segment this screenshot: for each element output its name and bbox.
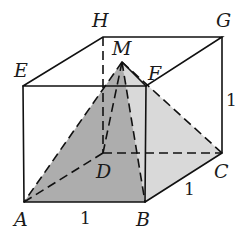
label-m: M [111,37,132,59]
label-g: G [216,9,231,31]
label-h: H [91,9,109,31]
label-b: B [135,208,150,230]
cube-pyramid-diagram: H G E F M D C A B 1 1 1 [0,0,247,231]
length-ab: 1 [80,208,91,228]
label-d: D [95,160,111,182]
label-a: A [12,208,28,230]
label-e: E [13,59,28,81]
length-bc: 1 [184,179,195,199]
edge-fb [145,86,146,202]
edge-ea [23,86,24,202]
length-cg: 1 [226,90,237,110]
label-c: C [214,160,229,182]
label-f: F [147,62,162,84]
